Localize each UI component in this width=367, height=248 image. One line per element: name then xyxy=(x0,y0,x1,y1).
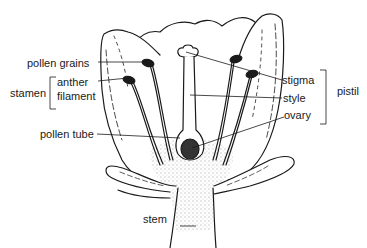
label-stigma: stigma xyxy=(282,74,315,86)
back-petal xyxy=(132,18,255,45)
label-anther: anther xyxy=(57,76,89,88)
label-ovary: ovary xyxy=(284,109,311,121)
label-stem: stem xyxy=(143,213,167,225)
flower-diagram: pollen grains stamen anther filament pol… xyxy=(0,0,367,248)
stigma-shape xyxy=(178,45,198,58)
label-filament: filament xyxy=(57,90,96,102)
label-pollen-tube: pollen tube xyxy=(40,128,94,140)
label-style: style xyxy=(283,92,306,104)
label-stamen: stamen xyxy=(10,87,46,99)
flower-illustration xyxy=(101,14,295,248)
label-pistil: pistil xyxy=(337,85,359,97)
label-pollen-grains: pollen grains xyxy=(27,57,90,69)
